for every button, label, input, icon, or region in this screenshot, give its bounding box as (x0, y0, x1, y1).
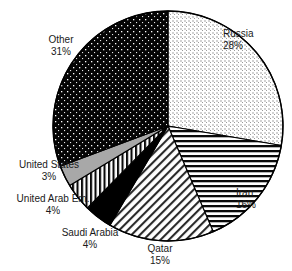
pie-label-other-value: 31% (30, 46, 92, 58)
pie-label-qatar-value: 15% (128, 255, 192, 267)
pie-label-russia: Russia 28% (223, 28, 254, 51)
pie-label-iran-name: Iran (236, 187, 256, 199)
pie-label-united-arab-emirates: United Arab Em. 4% (1, 193, 105, 216)
pie-label-saudi-arabia-name: Saudi Arabia (42, 227, 138, 239)
pie-label-russia-name: Russia (223, 28, 254, 40)
pie-label-other: Other 31% (30, 34, 92, 57)
pie-label-russia-value: 28% (223, 40, 254, 52)
pie-label-united-arab-emirates-value: 4% (1, 205, 105, 217)
pie-label-iran: Iran 16% (236, 187, 256, 210)
pie-label-united-states-value: 3% (1, 171, 97, 183)
pie-label-iran-value: 16% (236, 199, 256, 211)
pie-label-saudi-arabia: Saudi Arabia 4% (42, 227, 138, 250)
pie-label-other-name: Other (30, 34, 92, 46)
pie-label-united-arab-emirates-name: United Arab Em. (1, 193, 105, 205)
pie-label-saudi-arabia-value: 4% (42, 239, 138, 251)
pie-label-united-states-name: United States (1, 159, 97, 171)
pie-label-united-states: United States 3% (1, 159, 97, 182)
pie-chart-figure: Russia 28% Iran 16% Qatar 15% Saudi Arab… (0, 0, 292, 271)
